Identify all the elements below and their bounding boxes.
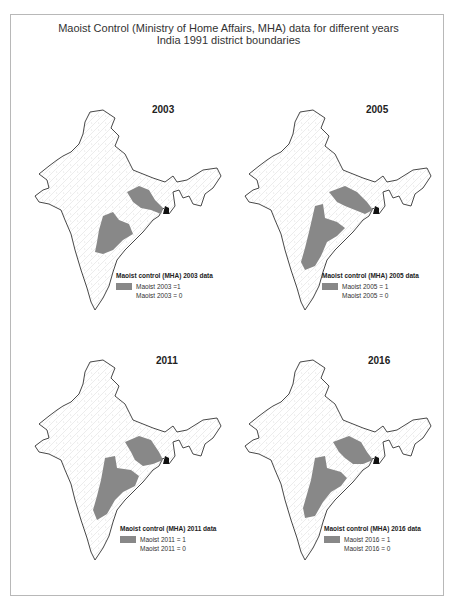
legend-label-on: Maoist 2016 = 1 xyxy=(344,536,390,543)
legend-2016: Maoist control (MHA) 2016 data Maoist 20… xyxy=(324,525,421,553)
figure-title: Maoist Control (Ministry of Home Affairs… xyxy=(0,22,457,46)
map-panel-2016: 2016 Maoist control (MHA) 2016 data Maoi… xyxy=(240,355,455,603)
map-panel-2011: 2011 Maoist control (MHA) 2011 data Maoi… xyxy=(20,355,235,603)
legend-label-on: Maoist 2011 = 1 xyxy=(140,536,186,543)
legend-title: Maoist control (MHA) 2016 data xyxy=(324,525,421,532)
legend-swatch-on xyxy=(116,283,132,290)
legend-label-off: Maoist 2005 = 0 xyxy=(342,292,388,299)
map-panel-2005: 2005 Maoist control (MHA) 2005 data Maoi… xyxy=(240,100,455,350)
legend-2005: Maoist control (MHA) 2005 data Maoist 20… xyxy=(322,272,419,300)
map-panel-2003: 2003 Maoist control (MHA) 2003 data Maoi… xyxy=(20,100,235,350)
legend-2011: Maoist control (MHA) 2011 data Maoist 20… xyxy=(120,525,216,553)
legend-swatch-off xyxy=(120,545,136,552)
legend-label-off: Maoist 2003 = 0 xyxy=(136,292,182,299)
legend-swatch-off xyxy=(324,545,340,552)
legend-swatch-off xyxy=(116,292,132,299)
legend-title: Maoist control (MHA) 2011 data xyxy=(120,525,216,532)
legend-title: Maoist control (MHA) 2005 data xyxy=(322,272,419,279)
year-label: 2011 xyxy=(156,355,178,366)
legend-swatch-on xyxy=(120,536,136,543)
year-label: 2003 xyxy=(152,104,174,115)
year-label: 2016 xyxy=(368,355,390,366)
legend-label-on: Maoist 2005 = 1 xyxy=(342,283,388,290)
title-line-2: India 1991 district boundaries xyxy=(0,34,457,46)
legend-label-on: Maoist 2003 =1 xyxy=(136,283,181,290)
legend-label-off: Maoist 2016 = 0 xyxy=(344,545,390,552)
year-label: 2005 xyxy=(366,104,388,115)
legend-swatch-off xyxy=(322,292,338,299)
legend-title: Maoist control (MHA) 2003 data xyxy=(116,272,213,279)
legend-swatch-on xyxy=(324,536,340,543)
legend-swatch-on xyxy=(322,283,338,290)
legend-2003: Maoist control (MHA) 2003 data Maoist 20… xyxy=(116,272,213,300)
legend-label-off: Maoist 2011 = 0 xyxy=(140,545,186,552)
title-line-1: Maoist Control (Ministry of Home Affairs… xyxy=(0,22,457,34)
